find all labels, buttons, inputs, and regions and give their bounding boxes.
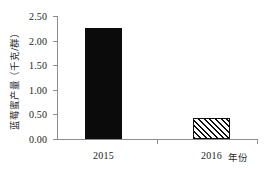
y-tick-label-0-50: 0.50 bbox=[29, 109, 47, 120]
bar-2016 bbox=[193, 118, 230, 139]
y-tick-mark-2-50: 2.50 bbox=[53, 16, 57, 17]
plot-area: 2.50 2.00 1.50 1.00 0.50 0.00 2015 2016 bbox=[57, 16, 258, 140]
x-axis-title: 年份 bbox=[228, 150, 248, 164]
y-tick-mark-2-00: 2.00 bbox=[53, 41, 57, 42]
y-tick-label-0-00: 0.00 bbox=[29, 134, 47, 145]
x-tick-mark-end bbox=[257, 140, 258, 144]
y-tick-mark-1-00: 1.00 bbox=[53, 90, 57, 91]
y-tick-label-2-00: 2.00 bbox=[29, 35, 47, 46]
x-category-label-2016: 2016 bbox=[201, 150, 222, 161]
y-tick-mark-0-50: 0.50 bbox=[53, 114, 57, 115]
y-tick-label-1-00: 1.00 bbox=[29, 84, 47, 95]
y-tick-label-2-50: 2.50 bbox=[29, 11, 47, 22]
y-tick-mark-1-50: 1.50 bbox=[53, 65, 57, 66]
y-tick-mark-0-00: 0.00 bbox=[53, 139, 57, 140]
bar-chart-figure: 蓝莓蜜产量（千克/群） 2.50 2.00 1.50 1.00 0.50 0.0… bbox=[0, 0, 266, 169]
x-tick-mark-mid bbox=[157, 140, 158, 144]
x-category-label-2015: 2015 bbox=[93, 150, 114, 161]
y-axis-title: 蓝莓蜜产量（千克/群） bbox=[7, 13, 23, 145]
y-axis-line bbox=[57, 16, 58, 140]
bar-2015 bbox=[85, 28, 122, 139]
y-tick-label-1-50: 1.50 bbox=[29, 60, 47, 71]
